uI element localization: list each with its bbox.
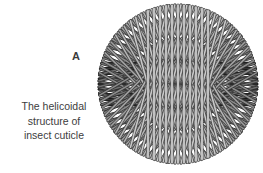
helicoid-diagram [0, 0, 263, 173]
figure-panel: A The helicoidal structure of insect cut… [0, 0, 263, 173]
